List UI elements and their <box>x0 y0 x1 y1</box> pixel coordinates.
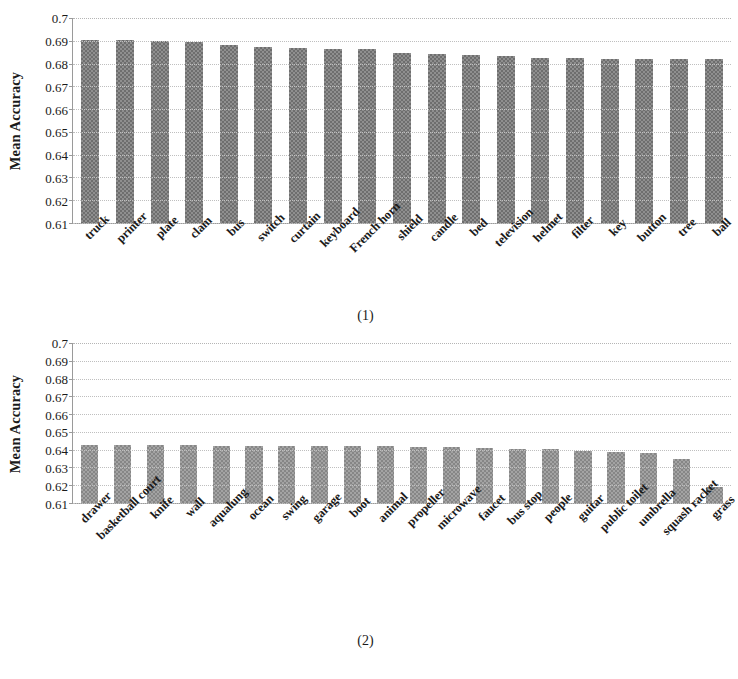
bar <box>185 42 203 223</box>
bar <box>531 58 549 223</box>
bar-slot <box>385 18 420 223</box>
bar-slot <box>489 18 524 223</box>
y-axis-tick-mark <box>69 432 73 433</box>
bar <box>324 49 342 223</box>
y-axis-tick-label: 0.7 <box>52 12 68 25</box>
y-axis-tick-mark <box>69 396 73 397</box>
y-axis-tick-label: 0.7 <box>52 337 68 350</box>
y-axis-tick-mark <box>69 41 73 42</box>
bar-slot <box>142 18 177 223</box>
y-axis-tick-label: 0.66 <box>45 103 68 116</box>
plot-area-2 <box>72 343 731 504</box>
bar-slot <box>303 343 336 503</box>
y-axis-tick-label: 0.62 <box>45 480 68 493</box>
bar <box>254 47 272 223</box>
bar-slot <box>523 18 558 223</box>
bar <box>705 59 723 223</box>
bar <box>116 40 134 223</box>
chart-panel-2: Mean Accuracy 0.70.690.680.670.660.650.6… <box>0 343 731 673</box>
y-axis-tick-mark <box>69 177 73 178</box>
y-axis-tick-label: 0.61 <box>45 498 68 511</box>
y-axis-tick-label: 0.67 <box>45 80 68 93</box>
bar-slot <box>632 343 665 503</box>
bar-slot <box>402 343 435 503</box>
plot-row-2: Mean Accuracy 0.70.690.680.670.660.650.6… <box>0 343 731 504</box>
y-tick-labels-2: 0.70.690.680.670.660.650.640.630.620.61 <box>30 343 72 504</box>
y-axis-tick-label: 0.66 <box>45 408 68 421</box>
y-axis-tick-label: 0.62 <box>45 195 68 208</box>
bar <box>393 53 411 223</box>
y-axis-tick-label: 0.65 <box>45 426 68 439</box>
y-axis-tick-label: 0.65 <box>45 126 68 139</box>
y-axis-tick-mark <box>69 200 73 201</box>
bar <box>81 445 98 503</box>
bar-slot <box>172 343 205 503</box>
bar <box>151 41 169 223</box>
bar <box>497 56 515 223</box>
bar <box>670 59 688 223</box>
bar <box>180 445 197 503</box>
bar-slot <box>454 18 489 223</box>
bar <box>574 451 591 503</box>
y-axis-tick-mark <box>69 223 73 224</box>
bar-slot <box>501 343 534 503</box>
bar-slot <box>350 18 385 223</box>
bar <box>220 45 238 223</box>
bar-slot <box>246 18 281 223</box>
bar-series-2 <box>73 343 731 503</box>
bar-slot <box>627 18 662 223</box>
bar-slot <box>281 18 316 223</box>
plot-area-1 <box>72 18 731 224</box>
bar-slot <box>108 18 143 223</box>
bar-slot <box>73 18 108 223</box>
bar <box>213 446 230 503</box>
bar-slot <box>665 343 698 503</box>
y-axis-tick-label: 0.61 <box>45 218 68 231</box>
bar <box>410 447 427 503</box>
y-axis-tick-mark <box>69 467 73 468</box>
y-axis-tick-mark <box>69 64 73 65</box>
y-axis-tick-label: 0.68 <box>45 57 68 70</box>
y-axis-tick-mark <box>69 18 73 19</box>
y-axis-tick-mark <box>69 132 73 133</box>
panel-caption-1: (1) <box>0 308 731 324</box>
y-axis-tick-mark <box>69 343 73 344</box>
y-axis-tick-mark <box>69 379 73 380</box>
y-axis-tick-mark <box>69 361 73 362</box>
y-axis-tick-label: 0.63 <box>45 462 68 475</box>
y-axis-tick-label: 0.69 <box>45 354 68 367</box>
bar-slot <box>534 343 567 503</box>
bar-slot <box>73 343 106 503</box>
y-axis-tick-label: 0.68 <box>45 372 68 385</box>
y-tick-labels-1: 0.70.690.680.670.660.650.640.630.620.61 <box>30 18 72 224</box>
y-axis-tick-label: 0.69 <box>45 34 68 47</box>
bar <box>278 446 295 503</box>
bar-slot <box>238 343 271 503</box>
chart-panel-1: Mean Accuracy 0.70.690.680.670.660.650.6… <box>0 18 731 338</box>
y-axis-tick-mark <box>69 155 73 156</box>
bar-slot <box>698 343 731 503</box>
bar-slot <box>419 18 454 223</box>
bar-slot <box>177 18 212 223</box>
plot-row-1: Mean Accuracy 0.70.690.680.670.660.650.6… <box>0 18 731 224</box>
bar-slot <box>696 18 731 223</box>
bar-slot <box>558 18 593 223</box>
bar <box>601 59 619 223</box>
bar-slot <box>336 343 369 503</box>
bar <box>311 446 328 503</box>
bar <box>542 449 559 503</box>
bar <box>428 54 446 223</box>
bar-series-1 <box>73 18 731 223</box>
bar-slot <box>662 18 697 223</box>
bar-slot <box>106 343 139 503</box>
y-axis-title-label-2: Mean Accuracy <box>7 374 24 472</box>
y-axis-tick-mark <box>69 450 73 451</box>
bar <box>635 59 653 223</box>
bar <box>462 55 480 223</box>
y-axis-tick-label: 0.63 <box>45 172 68 185</box>
y-axis-title-1: Mean Accuracy <box>0 18 30 224</box>
y-axis-tick-label: 0.64 <box>45 149 68 162</box>
bar-slot <box>369 343 402 503</box>
y-axis-tick-mark <box>69 485 73 486</box>
